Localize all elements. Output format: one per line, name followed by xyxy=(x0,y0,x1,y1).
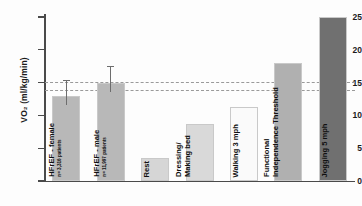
bar-label-line1-rest: Rest xyxy=(142,161,151,177)
bar-label-line1-dressing-making-bed: Dressing/ xyxy=(174,142,183,177)
error-bar-cap-hfref-male xyxy=(107,66,114,67)
bar-label-walking-3-mph: Walking 3 mph xyxy=(231,124,240,177)
bar-label-hfref-female: HFrEF - femalen= 3,316 patients xyxy=(49,123,63,177)
bar-label-hfref-male: HFrEF - malen= 11,997 patients xyxy=(93,130,107,177)
bar-hfref-male: HFrEF - malen= 11,997 patients xyxy=(97,17,125,181)
bar-functional-independence-threshold: FunctionalIndependence Threshold xyxy=(274,17,302,181)
bar-label-line1-hfref-female: HFrEF - female xyxy=(48,123,57,177)
bar-rest: Rest xyxy=(141,17,169,181)
y-axis-title: VO₂ (ml/kg/min) xyxy=(19,10,29,170)
bar-walking-3-mph: Walking 3 mph xyxy=(230,17,258,181)
bar-label-line1-hfref-male: HFrEF - male xyxy=(92,130,101,177)
bar-label-dressing-making-bed: Dressing/Making bed xyxy=(175,135,192,177)
bar-hfref-female: HFrEF - femalen= 3,316 patients xyxy=(52,17,80,181)
bar-label-jogging-5-mph: Jogging 5 mph xyxy=(320,123,329,177)
bar-dressing-making-bed: Dressing/Making bed xyxy=(186,17,214,181)
bar-label-line1-functional-independence-threshold: Functional xyxy=(262,139,271,177)
bar-label-line2-dressing-making-bed: Making bed xyxy=(183,135,192,177)
error-bar-cap-hfref-female xyxy=(63,80,70,81)
bar-sublabel-hfref-female: n= 3,316 patients xyxy=(57,123,62,177)
error-bar-hfref-female xyxy=(66,80,67,105)
bar-label-rest: Rest xyxy=(143,161,152,177)
bar-sublabel-hfref-male: n= 11,997 patients xyxy=(102,130,107,177)
plot-area: HFrEF - femalen= 3,316 patientsHFrEF - m… xyxy=(44,17,355,181)
bar-label-functional-independence-threshold: FunctionalIndependence Threshold xyxy=(263,87,280,177)
bar-jogging-5-mph: Jogging 5 mph xyxy=(319,17,347,181)
bar-label-line1-jogging-5-mph: Jogging 5 mph xyxy=(319,123,328,177)
error-bar-hfref-male xyxy=(110,66,111,92)
bar-label-line1-walking-3-mph: Walking 3 mph xyxy=(230,124,239,177)
bar-label-line2-functional-independence-threshold: Independence Threshold xyxy=(272,87,281,177)
vo2-bar-chart: VO₂ (ml/kg/min) 0510152025 HFrEF - femal… xyxy=(0,0,362,206)
